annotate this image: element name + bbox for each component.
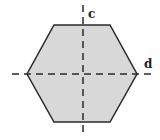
axis-c-label: c bbox=[88, 7, 95, 21]
axis-d-label: d bbox=[144, 57, 153, 71]
hexagon-diagram: c d bbox=[0, 0, 160, 140]
